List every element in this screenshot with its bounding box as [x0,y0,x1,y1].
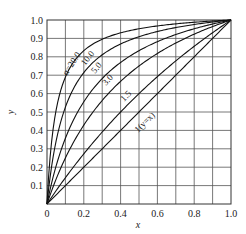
y-tick-0-5: 0.5 [31,107,44,118]
x-tick-0-4: 0.4 [114,208,127,219]
curve-labels: α=20.0 10.0 5.0 3.0 1.5 1(y=x) [60,48,157,134]
y-tick-0-8: 0.8 [31,51,44,62]
x-tick-1-0: 1.0 [225,208,238,219]
x-tick-0-6: 0.6 [151,208,164,219]
x-tick-labels: 0 0.2 0.4 0.6 0.8 1.0 [45,208,238,219]
y-tick-0-9: 0.9 [31,33,44,44]
y-tick-0-4: 0.4 [31,125,44,136]
y-tick-0-7: 0.7 [31,70,44,81]
x-tick-0: 0 [45,208,50,219]
y-tick-0-2: 0.2 [31,162,44,173]
y-tick-labels: 0.1 0.2 0.3 0.4 0.5 0.6 0.7 0.8 0.9 1.0 [31,15,44,192]
vapor-liquid-equilibrium-chart: α=20.0 10.0 5.0 3.0 1.5 1(y=x) 0 0.2 0.4… [0,0,246,234]
y-tick-0-1: 0.1 [31,180,44,191]
x-tick-0-2: 0.2 [78,208,91,219]
x-axis-label: x [135,219,141,230]
y-tick-0-3: 0.3 [31,143,44,154]
curve-label-alpha-20: α=20.0 [60,50,83,77]
x-tick-0-8: 0.8 [188,208,201,219]
y-tick-1-0: 1.0 [31,15,44,26]
y-axis-label: y [5,109,16,115]
y-tick-0-6: 0.6 [31,88,44,99]
